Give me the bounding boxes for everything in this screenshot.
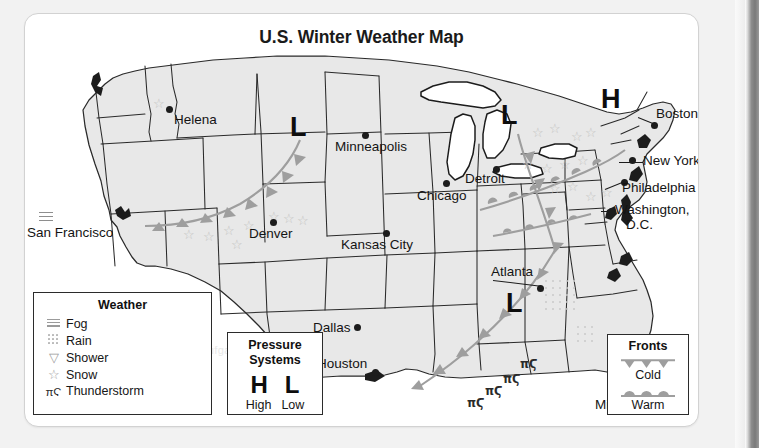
snow-icon-helena: ☆	[153, 97, 165, 110]
city-label-minneapolis: Minneapolis	[335, 140, 407, 155]
legend-item-thunderstorm-label: Thunderstorm	[63, 384, 144, 400]
page-edge-inner	[735, 0, 745, 448]
page-edge-strip	[745, 0, 759, 448]
city-dot-minneapolis	[362, 132, 369, 139]
high-pressure-symbol: H	[250, 373, 267, 397]
snow-icon-northeast-9: ☆	[549, 182, 561, 195]
cold-front-label: Cold	[608, 368, 688, 384]
city-dot-kansas-city	[383, 230, 390, 237]
shower-icon: ▽	[44, 351, 63, 367]
legend-item-shower-label: Shower	[63, 351, 108, 367]
city-label-washington-dc: Washington,	[615, 203, 690, 218]
pressure-low-northern-plains: L	[290, 114, 307, 141]
city-label-san-francisco: San Francisco	[27, 226, 113, 241]
pressure-high-new-england: H	[601, 86, 621, 113]
thunderstorm-icon-gulf-4: πϚ	[467, 398, 485, 410]
thunderstorm-icon-gulf-2: πϚ	[503, 374, 521, 386]
snow-icon-northeast-11: ☆	[585, 190, 597, 203]
pressure-low-great-lakes: L	[501, 102, 518, 129]
snow-icon-rockies-3: ☆	[223, 224, 235, 237]
legend-item-thunderstorm: πϚ Thunderstorm	[44, 384, 211, 400]
legend-item-snow-label: Snow	[63, 368, 97, 384]
warm-front-icon	[620, 387, 676, 398]
snow-icon-rockies-8: ☆	[283, 212, 295, 225]
fog-icon	[44, 317, 63, 334]
legend-fronts-title: Fronts	[608, 339, 688, 354]
leader-line-washington-dc	[601, 211, 612, 212]
snow-icon-northeast-2: ☆	[549, 122, 561, 135]
legend-item-snow: ☆ Snow	[44, 368, 211, 384]
snow-icon-northeast-10: ☆	[567, 180, 579, 193]
snow-icon-rockies-9: ☆	[297, 214, 309, 227]
legend-pressure-captions: High Low	[228, 398, 322, 412]
city-dot-chicago	[443, 180, 450, 187]
pressure-low-southeast: L	[506, 290, 523, 317]
legend-item-rain-label: Rain	[63, 334, 92, 350]
rain-icon-carolinas	[545, 280, 583, 314]
legend-item-fog-label: Fog	[63, 317, 88, 333]
city-label-boston: Boston	[656, 107, 698, 122]
city-dot-houston	[372, 369, 379, 376]
rain-icon-north-florida	[577, 326, 601, 348]
snow-icon-northeast-3: ☆	[571, 130, 583, 143]
city-label-washington-dc-line2: D.C.	[626, 218, 653, 233]
thunderstorm-icon: πϚ	[44, 385, 63, 399]
legend-weather-title: Weather	[34, 298, 211, 313]
thunderstorm-icon-gulf-3: πϚ	[485, 386, 503, 398]
city-label-helena: Helena	[174, 113, 217, 128]
legend-pressure-symbols: H L	[228, 373, 322, 397]
city-dot-denver	[270, 219, 277, 226]
legend-pressure-systems: Pressure Systems H L High Low	[227, 332, 323, 415]
legend-fronts: Fronts Cold Warm	[607, 334, 689, 415]
low-pressure-label: Low	[281, 398, 304, 412]
cold-front-icon	[620, 357, 676, 368]
legend-pressure-title-line1: Pressure	[228, 338, 322, 353]
legend-item-rain: Rain	[44, 334, 211, 350]
snow-icon-northeast-6: ☆	[541, 162, 553, 175]
fog-icon-san-francisco	[39, 212, 53, 223]
city-label-detroit: Detroit	[465, 172, 505, 187]
city-label-philadelphia: Philadelphia	[622, 181, 696, 196]
legend-weather-list: Fog Rain ▽ Shower ☆ Snow	[34, 317, 211, 400]
snow-icon-northeast-5: ☆	[522, 158, 534, 171]
snow-icon-northeast-1: ☆	[532, 126, 544, 139]
snow-icon-rockies-4: ☆	[231, 238, 243, 251]
legend-item-fog: Fog	[44, 317, 211, 334]
warm-front-label: Warm	[608, 398, 688, 414]
high-pressure-label: High	[246, 398, 272, 412]
low-pressure-symbol: L	[285, 373, 300, 397]
city-label-kansas-city: Kansas City	[341, 238, 413, 253]
leader-line-new-york	[619, 162, 643, 163]
snow-icon-rockies-1: ☆	[183, 228, 195, 241]
city-label-new-york: New York	[643, 154, 699, 169]
snow-icon-northeast-7: ☆	[559, 158, 571, 171]
weather-map-card: Kalender der Unterrichtsstunde der Unter…	[24, 13, 699, 427]
thunderstorm-icon-gulf-1: πϚ	[520, 359, 538, 371]
city-label-houston: Houston	[317, 357, 367, 372]
legend-pressure-title-line2: Systems	[228, 353, 322, 368]
legend-weather: Weather Fog Rain ▽ S	[33, 292, 212, 415]
snow-icon: ☆	[44, 368, 63, 384]
rain-icon	[44, 334, 63, 350]
snow-icon-northeast-4: ☆	[585, 126, 597, 139]
legend-item-shower: ▽ Shower	[44, 351, 211, 367]
snow-icon-northeast-8: ☆	[577, 154, 589, 167]
city-dot-dallas	[354, 324, 361, 331]
city-dot-helena	[166, 106, 173, 113]
city-label-chicago: Chicago	[417, 189, 467, 204]
city-label-atlanta: Atlanta	[491, 265, 533, 280]
city-label-denver: Denver	[249, 227, 293, 242]
snow-icon-rockies-2: ☆	[203, 230, 215, 243]
